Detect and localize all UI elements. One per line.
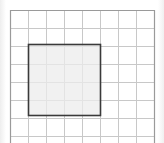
grid-diagram <box>0 0 164 143</box>
shaded-square <box>29 45 101 116</box>
